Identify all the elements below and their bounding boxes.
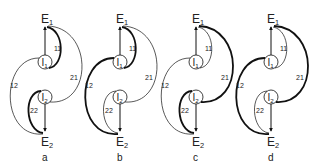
label-edge-22: 22 [181,107,189,114]
edge-21 [274,26,308,102]
label-e1: E1 [267,12,279,27]
edge-21 [123,26,157,102]
panel-caption-a: a [42,152,48,163]
panel-d: E1E2I1I211211222d [236,12,308,163]
label-edge-21: 21 [70,74,78,81]
label-e1: E1 [41,12,53,27]
panel-c: E1E2I1I211211222c [161,12,233,163]
panel-caption-b: b [117,152,123,163]
panel-caption-c: c [193,152,198,163]
label-edge-12: 12 [10,82,18,89]
label-e2: E2 [192,135,204,150]
panel-b: E1E2I1I211211222b [85,12,157,163]
diagram-figure: E1E2I1I211211222aE1E2I1I211211222bE1E2I1… [0,0,311,166]
label-edge-21: 21 [145,74,153,81]
edge-21 [199,26,233,102]
label-edge-11: 11 [205,45,212,52]
label-edge-11: 11 [280,45,287,52]
label-edge-21: 21 [296,74,304,81]
label-e2: E2 [267,135,279,150]
panel-a: E1E2I1I211211222a [10,12,82,163]
label-e1: E1 [192,12,204,27]
label-edge-11: 11 [129,45,136,52]
label-edge-22: 22 [30,107,38,114]
edge-21 [48,26,82,102]
label-e1: E1 [116,12,128,27]
label-edge-21: 21 [221,74,229,81]
label-edge-12: 12 [236,82,244,89]
label-edge-22: 22 [256,107,264,114]
label-e2: E2 [116,135,128,150]
label-e2: E2 [41,135,53,150]
label-edge-12: 12 [161,82,169,89]
label-edge-11: 11 [54,45,61,52]
panel-caption-d: d [268,152,274,163]
label-edge-12: 12 [85,82,93,89]
label-edge-22: 22 [105,107,113,114]
